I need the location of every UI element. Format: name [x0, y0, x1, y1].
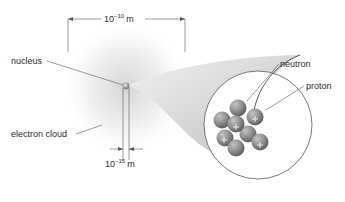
- atom-diagram: 10−10m 10−15m nucleus electron cloud neu…: [0, 0, 345, 202]
- electron-cloud-label: electron cloud: [11, 129, 67, 139]
- nucleus-label: nucleus: [11, 56, 43, 66]
- nucleus-size-label: 10−15m: [105, 158, 135, 169]
- proton-label: proton: [306, 81, 332, 91]
- neutron-label: neutron: [280, 59, 311, 69]
- nucleus: [123, 83, 129, 89]
